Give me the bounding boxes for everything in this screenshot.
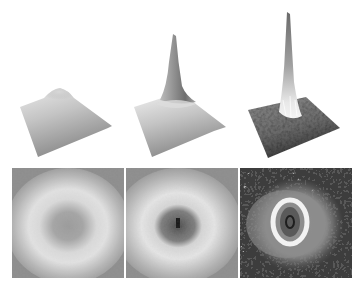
intensity-map-2 bbox=[126, 168, 238, 278]
surface-plot-3 bbox=[248, 12, 340, 158]
intensity-map-3 bbox=[240, 168, 352, 278]
surface-plot-2 bbox=[134, 34, 226, 157]
surface-plot-1 bbox=[20, 88, 112, 157]
intensity-map-1 bbox=[12, 168, 124, 278]
surface-plots-row bbox=[0, 0, 360, 165]
